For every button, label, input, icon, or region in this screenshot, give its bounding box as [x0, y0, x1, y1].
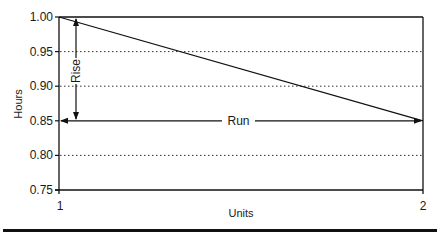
y-tick-labels: 1.00 0.95 0.90 0.85 0.80 0.75: [30, 10, 54, 197]
gridlines: [60, 52, 423, 156]
y-tick-label: 0.85: [30, 114, 54, 128]
bottom-rule: [3, 229, 437, 232]
x-axis-title: Units: [228, 207, 254, 219]
y-tick-label: 0.80: [30, 148, 54, 162]
learning-curve-chart: 1.00 0.95 0.90 0.85 0.80 0.75 1 2 Units …: [0, 0, 440, 235]
y-tick-label: 0.95: [30, 45, 54, 59]
rise-label: Rise: [69, 59, 83, 83]
run-annotation: Run: [61, 114, 421, 128]
run-label: Run: [227, 114, 249, 128]
x-tick-label: 1: [57, 199, 64, 213]
y-tick-label: 0.75: [30, 183, 54, 197]
x-tick-label: 2: [420, 199, 427, 213]
rise-annotation: Rise: [69, 19, 83, 119]
y-axis-title: Hours: [12, 89, 24, 119]
series-line: [59, 17, 423, 121]
y-tick-label: 0.90: [30, 79, 54, 93]
y-tick-label: 1.00: [30, 10, 54, 24]
